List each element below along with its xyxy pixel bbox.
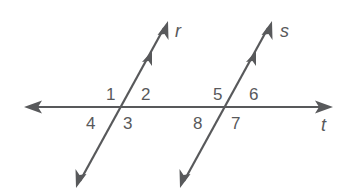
parallel-lines-diagram: r s t 1 2 4 3 5 6 8 7 bbox=[0, 0, 352, 193]
angle-5: 5 bbox=[213, 85, 222, 104]
line-s bbox=[180, 21, 273, 188]
angle-4: 4 bbox=[86, 114, 95, 133]
line-r bbox=[76, 21, 169, 188]
angle-1: 1 bbox=[106, 85, 115, 104]
angle-8: 8 bbox=[193, 114, 202, 133]
label-r: r bbox=[175, 21, 182, 41]
angle-6: 6 bbox=[249, 85, 258, 104]
angle-3: 3 bbox=[123, 114, 132, 133]
line-t bbox=[24, 101, 333, 114]
label-t: t bbox=[321, 115, 327, 135]
label-s: s bbox=[280, 21, 289, 41]
angle-7: 7 bbox=[231, 114, 240, 133]
angle-2: 2 bbox=[141, 85, 150, 104]
